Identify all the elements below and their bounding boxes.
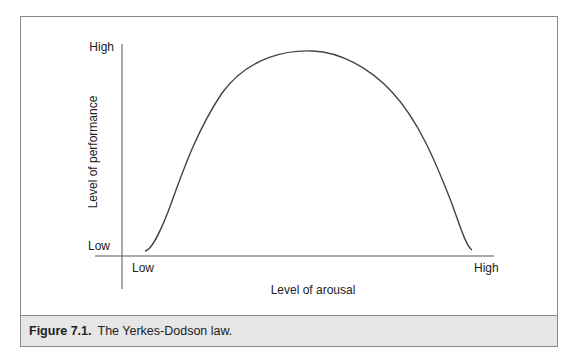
- x-tick-low: Low: [132, 261, 154, 275]
- y-tick-low: Low: [88, 239, 110, 253]
- y-tick-high: High: [89, 40, 114, 54]
- chart: High Low Low High Level of arousal Level…: [0, 0, 577, 364]
- performance-curve: [145, 51, 472, 251]
- y-axis-title: Level of performance: [86, 95, 100, 208]
- x-axis-title: Level of arousal: [271, 283, 356, 297]
- x-tick-high: High: [474, 261, 499, 275]
